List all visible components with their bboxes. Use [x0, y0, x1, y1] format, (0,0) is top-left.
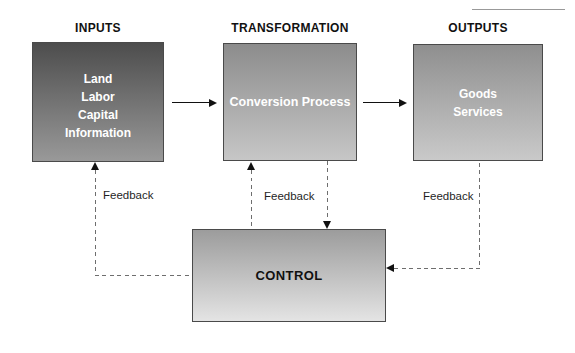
arrow-transformation-to-outputs-line — [363, 102, 400, 103]
top-right-rule — [472, 9, 565, 10]
arrow-up-icon — [247, 162, 255, 170]
feedback-label-transformation: Feedback — [264, 190, 315, 202]
outputs-line: Goods — [459, 85, 497, 103]
feedback-label-inputs: Feedback — [103, 189, 154, 201]
feedback-label-outputs: Feedback — [423, 190, 474, 202]
feedback-path-control-to-inputs-vertical — [95, 170, 96, 276]
inputs-line: Labor — [81, 88, 114, 106]
inputs-line: Information — [65, 124, 131, 142]
transformation-heading: TRANSFORMATION — [223, 21, 357, 36]
feedback-path-outputs-to-control-horizontal — [394, 268, 480, 269]
control-box: CONTROL — [192, 229, 386, 322]
outputs-box: Goods Services — [413, 44, 543, 161]
arrow-down-icon — [323, 221, 331, 229]
conversion-process-label: Conversion Process — [230, 93, 351, 111]
control-label: CONTROL — [255, 267, 322, 285]
arrow-inputs-to-transformation-line — [172, 102, 210, 103]
diagram-canvas: INPUTS TRANSFORMATION OUTPUTS Land Labor… — [0, 0, 575, 353]
feedback-path-control-to-transformation — [251, 170, 252, 229]
arrow-right-icon — [399, 99, 407, 107]
inputs-line: Land — [84, 70, 113, 88]
path-transformation-to-control — [327, 161, 328, 221]
arrow-right-icon — [209, 99, 217, 107]
outputs-heading: OUTPUTS — [413, 21, 543, 36]
transformation-box: Conversion Process — [223, 43, 357, 161]
inputs-line: Capital — [78, 106, 118, 124]
arrow-left-icon — [386, 264, 394, 272]
feedback-path-outputs-to-control-vertical — [479, 163, 480, 268]
inputs-box: Land Labor Capital Information — [32, 42, 164, 162]
outputs-line: Services — [453, 103, 502, 121]
arrow-up-icon — [91, 162, 99, 170]
feedback-path-control-to-inputs-horizontal — [95, 275, 192, 276]
inputs-heading: INPUTS — [32, 21, 164, 36]
